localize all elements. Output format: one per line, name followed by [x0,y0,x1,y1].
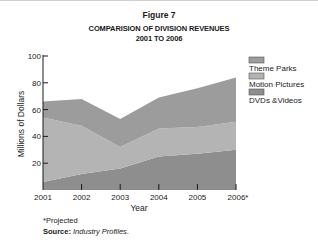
footnote: *Projected Source: Industry Profiles. [43,215,129,237]
y-tick-label: 100 [28,52,42,61]
x-tick-label: 2005 [189,193,207,202]
legend-label: Theme Parks [249,64,297,73]
source-text: Industry Profiles [73,227,127,236]
source-label: Source: [43,227,71,236]
x-tick-label: 2004 [150,193,168,202]
x-tick-label: 2003 [111,193,129,202]
source-note: Source: Industry Profiles. [43,226,129,237]
legend-swatch [249,73,264,79]
legend: Theme ParksMotion PicturesDVDs &Videos [249,57,304,105]
y-axis-title: Millions of Dollars [16,91,26,158]
area-layers [43,77,236,190]
legend-label: Motion Pictures [249,80,304,89]
x-tick-label: 2006* [228,193,249,202]
y-tick-label: 80 [32,79,41,88]
legend-swatch [249,57,264,63]
x-tick-label: 2002 [73,193,91,202]
x-axis-title: Year [130,203,147,213]
legend-label: DVDs &Videos [249,96,302,105]
x-tick-label: 2001 [34,193,52,202]
y-tick-label: 20 [32,159,41,168]
stacked-area-chart: 20406080100200120022003200420052006* The… [0,0,318,250]
y-tick-label: 60 [32,106,41,115]
legend-swatch [249,89,264,95]
y-tick-label: 40 [32,132,41,141]
projected-note: *Projected [43,215,129,226]
source-end: . [127,227,129,236]
